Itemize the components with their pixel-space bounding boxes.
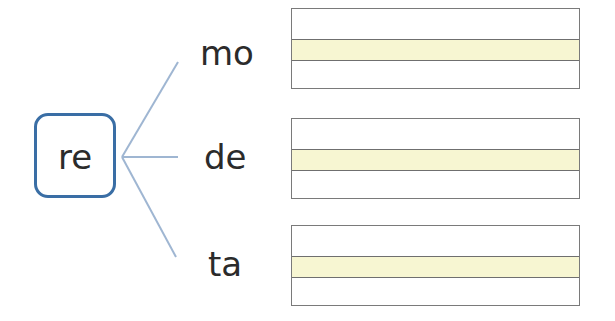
syllable-mo: mo bbox=[200, 36, 254, 70]
writing-box-ta[interactable] bbox=[291, 225, 580, 306]
writing-guide-band bbox=[292, 256, 579, 278]
syllable-de: de bbox=[204, 140, 247, 174]
writing-guide-band bbox=[292, 39, 579, 61]
syllable-ta: ta bbox=[208, 247, 242, 281]
branch-line-ta bbox=[122, 157, 176, 257]
branch-line-mo bbox=[122, 62, 178, 157]
writing-guide-band bbox=[292, 149, 579, 171]
writing-box-de[interactable] bbox=[291, 118, 580, 199]
writing-box-mo[interactable] bbox=[291, 8, 580, 89]
